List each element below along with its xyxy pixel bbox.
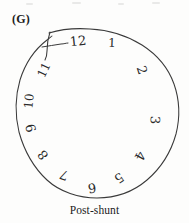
- clock-numeral-11: 11: [35, 61, 52, 80]
- clock-numeral-3: 3: [148, 116, 161, 125]
- figure-caption: Post-shunt: [0, 204, 189, 216]
- clock-numeral-10: 10: [22, 93, 36, 109]
- clock-numerals-layer: 121234567891011: [0, 0, 189, 223]
- clock-numeral-9: 9: [24, 122, 39, 133]
- clock-numeral-1: 1: [108, 37, 116, 49]
- clock-numeral-4: 4: [132, 149, 147, 162]
- clock-numeral-5: 5: [112, 170, 126, 185]
- clock-numeral-2: 2: [135, 64, 150, 76]
- clock-numeral-7: 7: [58, 167, 70, 182]
- clock-numeral-6: 6: [87, 181, 97, 195]
- clock-numeral-8: 8: [35, 148, 50, 163]
- clock-drawing-figure: (G) 121234567891011 Post-shunt: [0, 0, 189, 223]
- clock-numeral-12: 12: [69, 34, 87, 49]
